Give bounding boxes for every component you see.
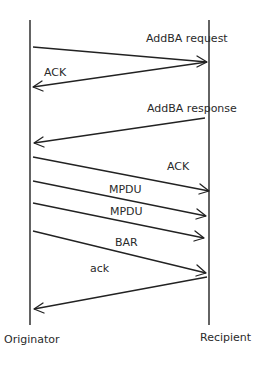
- message-label: MPDU: [109, 183, 142, 196]
- message-label: ack: [90, 262, 110, 275]
- message-label: ACK: [167, 160, 190, 173]
- message-ack-1: ACK: [33, 62, 207, 91]
- message-addba-request: AddBA request: [33, 32, 228, 67]
- message-addba-response: AddBA response: [34, 102, 237, 147]
- message-label: BAR: [115, 236, 138, 249]
- message-label: AddBA request: [146, 32, 228, 45]
- message-bar: BAR: [33, 231, 206, 276]
- message-label: ACK: [44, 66, 67, 79]
- message-label: AddBA response: [147, 102, 237, 115]
- sequence-diagram: AddBA request ACK AddBA response ACK MPD…: [0, 0, 277, 365]
- message-label: MPDU: [110, 205, 143, 218]
- participant-recipient-label: Recipient: [200, 331, 252, 344]
- message-ack-final: ack: [34, 262, 207, 313]
- participant-originator-label: Originator: [4, 333, 60, 346]
